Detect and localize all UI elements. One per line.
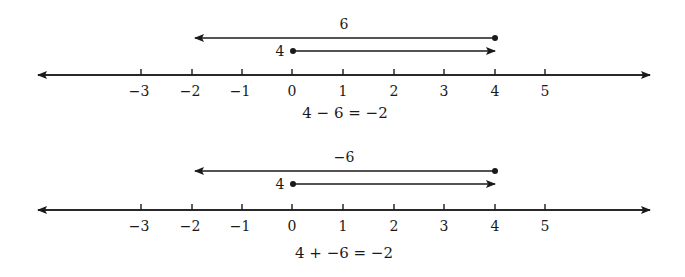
tick-label: −1 xyxy=(230,219,251,233)
tick-label: 0 xyxy=(288,84,297,98)
tick-label: −3 xyxy=(129,84,150,98)
long-arrow-label-2: −6 xyxy=(334,150,355,164)
tick-label: 0 xyxy=(288,219,297,233)
short-arrow-start-dot-2 xyxy=(290,181,296,187)
short-arrow-start-dot-1 xyxy=(290,48,296,54)
tick-label: −2 xyxy=(180,84,201,98)
panel-2 xyxy=(38,168,650,210)
tick-label: 5 xyxy=(541,84,550,98)
tick-label: 4 xyxy=(491,84,500,98)
number-line-figure xyxy=(0,0,685,277)
tick-label: −2 xyxy=(180,219,201,233)
panel-1 xyxy=(38,35,650,75)
tick-label: 1 xyxy=(339,219,348,233)
ticks-1 xyxy=(141,69,545,75)
tick-label: 2 xyxy=(390,219,399,233)
equation-2: 4 + −6 = −2 xyxy=(295,246,393,261)
short-arrow-label-1: 4 xyxy=(276,44,285,58)
long-arrow-start-dot-1 xyxy=(492,35,498,41)
ticks-2 xyxy=(141,204,545,210)
short-arrow-label-2: 4 xyxy=(276,177,285,191)
tick-label: 1 xyxy=(339,84,348,98)
tick-label: 3 xyxy=(440,219,449,233)
tick-label: −1 xyxy=(230,84,251,98)
long-arrow-label-1: 6 xyxy=(340,17,349,31)
tick-label: 5 xyxy=(541,219,550,233)
equation-1: 4 − 6 = −2 xyxy=(302,106,387,121)
tick-label: 3 xyxy=(440,84,449,98)
long-arrow-start-dot-2 xyxy=(492,168,498,174)
tick-label: 4 xyxy=(491,219,500,233)
tick-label: −3 xyxy=(129,219,150,233)
tick-label: 2 xyxy=(390,84,399,98)
